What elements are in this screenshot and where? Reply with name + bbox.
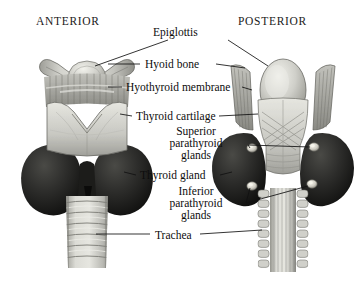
label-hyoid-bone: Hyoid bone [145, 59, 199, 71]
trachea-cartilage-ends-left [258, 190, 269, 267]
inferior-parathyroid-gland-right [307, 180, 317, 188]
anterior-thyroid-cartilage [47, 102, 127, 160]
posterior-view-illustration [212, 59, 354, 274]
label-inferior-parathyroid-glands: Inferior parathyroid glands [148, 186, 244, 221]
posterior-larynx-body [258, 98, 308, 174]
leader-trachea-right [200, 230, 262, 234]
label-epiglottis: Epiglottis [153, 27, 198, 39]
label-trachea: Trachea [155, 230, 192, 242]
anatomy-figure: ANTERIOR POSTERIOR Epiglottis Hyoid bone… [0, 0, 356, 283]
anterior-trachea [64, 194, 110, 270]
label-line-3: glands [148, 210, 244, 222]
label-superior-parathyroid-glands: Superior parathyroid glands [148, 126, 244, 161]
heading-posterior: POSTERIOR [238, 15, 307, 27]
label-line-2: parathyroid [148, 198, 244, 210]
leader-epiglottis-right [228, 40, 268, 66]
superior-parathyroid-gland-right [309, 143, 319, 151]
trachea-cartilage-ends-right [297, 190, 308, 267]
label-hyothyroid-membrane: Hyothyroid membrane [126, 82, 230, 94]
heading-anterior: ANTERIOR [36, 15, 100, 27]
inferior-parathyroid-gland-left [247, 182, 257, 190]
label-thyroid-gland: Thyroid gland [140, 170, 205, 182]
posterior-trachea [258, 186, 308, 274]
label-line-2: parathyroid [148, 138, 244, 150]
label-line-3: glands [148, 150, 244, 162]
label-thyroid-cartilage: Thyroid cartilage [136, 111, 216, 123]
